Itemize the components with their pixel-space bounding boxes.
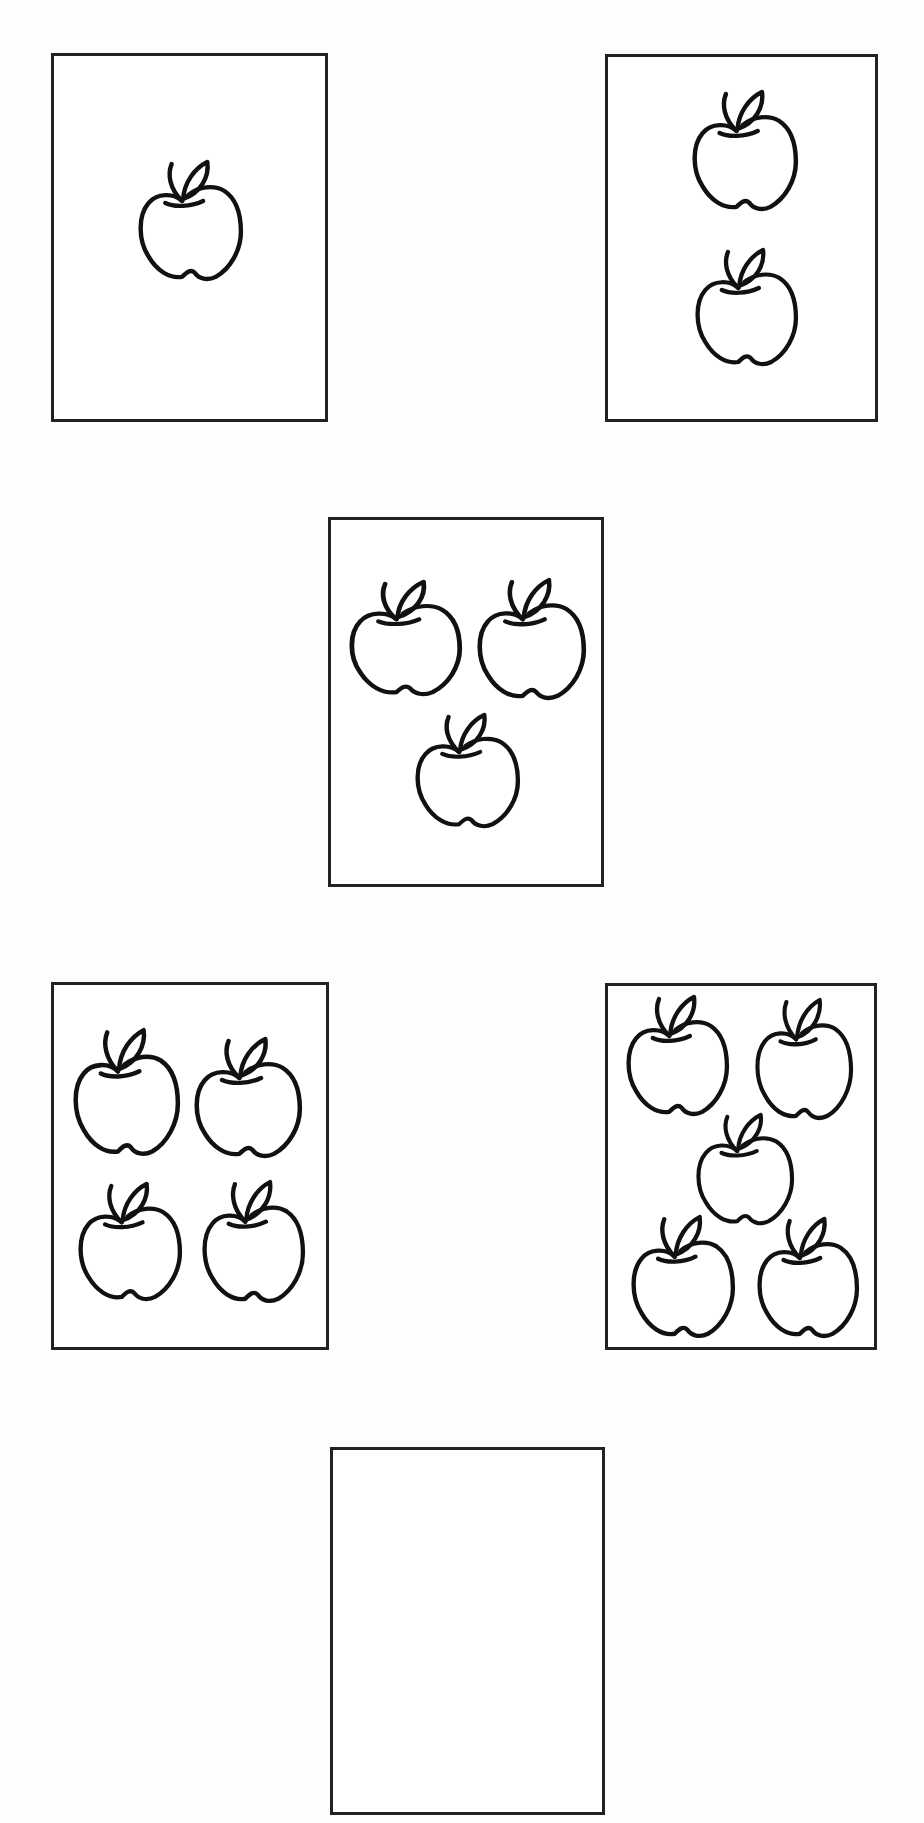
apple-count-card (328, 517, 604, 887)
apple-icon (202, 1180, 305, 1305)
apple-icon (692, 90, 798, 213)
apple-icon (757, 1217, 859, 1340)
apple-icon (477, 578, 586, 702)
apple-icon (626, 995, 729, 1118)
apple-icon (631, 1215, 735, 1340)
apple-icon (194, 1037, 302, 1160)
apple-icon (349, 580, 462, 698)
apple-icon (695, 248, 798, 368)
apple-count-card (51, 982, 329, 1350)
apple-icon (138, 160, 243, 283)
answer-box (330, 1447, 605, 1815)
apple-icon (415, 713, 520, 830)
apple-icon (78, 1182, 182, 1303)
apple-icon (73, 1028, 180, 1158)
apple-count-card (51, 53, 328, 422)
apple-icon (696, 1113, 794, 1227)
apple-icon (755, 998, 853, 1122)
apple-count-card (605, 983, 877, 1350)
apple-count-card (605, 54, 878, 422)
